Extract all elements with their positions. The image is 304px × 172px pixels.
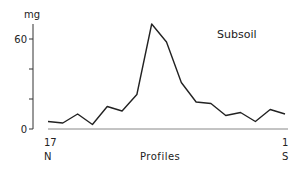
x-axis-label: Profiles: [140, 151, 180, 162]
chart: mg 060 Subsoil 17 1 N S Profiles: [0, 0, 304, 172]
x-start-label: 17: [44, 137, 57, 148]
x-end-direction: S: [282, 151, 288, 162]
x-start-direction: N: [44, 151, 51, 162]
y-tick-label: 60: [14, 34, 27, 45]
y-tick-label: 0: [21, 124, 27, 135]
y-axis-label: mg: [24, 9, 40, 20]
chart-title: Subsoil: [217, 28, 257, 41]
x-end-label: 1: [282, 137, 288, 148]
